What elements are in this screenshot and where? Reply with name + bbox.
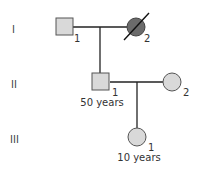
individual-iii1-age: 10 years: [117, 152, 160, 163]
individual-ii2-female-circle[interactable]: [163, 73, 181, 91]
individual-i1-male-square[interactable]: [56, 18, 73, 35]
individual-ii1-male-square[interactable]: [92, 73, 109, 90]
generation-label-ii: II: [11, 79, 17, 90]
individual-ii2-number: 2: [183, 87, 189, 98]
generation-label-i: I: [12, 24, 15, 35]
individual-ii1-age: 50 years: [80, 97, 123, 108]
individual-i2-number: 2: [144, 33, 150, 44]
individual-i1-number: 1: [74, 33, 80, 44]
individual-iii1-female-circle[interactable]: [128, 128, 146, 146]
pedigree-diagram: I II III 1 2 1 50 years 2 1 10 years: [0, 0, 210, 179]
generation-label-iii: III: [10, 134, 19, 145]
